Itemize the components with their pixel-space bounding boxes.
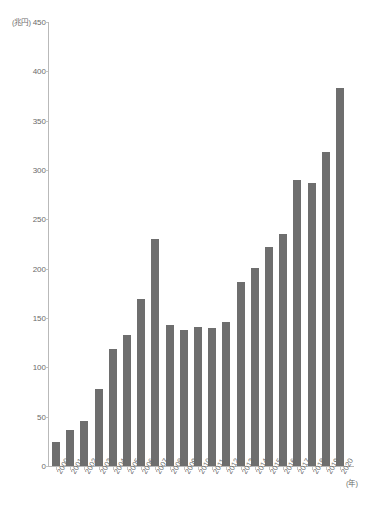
bar: [237, 282, 245, 466]
bar: [194, 327, 202, 466]
y-tick-label: 250: [6, 215, 46, 224]
y-tick-label: 100: [6, 363, 46, 372]
bar: [265, 247, 273, 466]
y-tick-label: 0: [6, 462, 46, 471]
bar: [336, 88, 344, 466]
bar: [166, 325, 174, 466]
bar: [109, 349, 117, 466]
bar: [279, 234, 287, 466]
bar: [151, 239, 159, 466]
y-tick-label: 350: [6, 116, 46, 125]
y-tick-label: 150: [6, 314, 46, 323]
bar: [251, 268, 259, 466]
y-tick-label: 400: [6, 67, 46, 76]
bar: [95, 389, 103, 466]
bar: [123, 335, 131, 466]
bar: [308, 183, 316, 466]
x-axis-tick-labels: 2000200120022003200420052006200720082009…: [48, 467, 354, 506]
bar: [180, 330, 188, 466]
x-axis-unit-label: (年): [346, 477, 358, 488]
bar: [222, 322, 230, 466]
y-tick-label: 200: [6, 264, 46, 273]
bar: [293, 180, 301, 466]
y-tick-label: 50: [6, 412, 46, 421]
bar: [208, 328, 216, 466]
y-axis-tick-labels: 050100150200250300350400450: [0, 0, 46, 506]
y-tick-label: 300: [6, 166, 46, 175]
bar: [137, 299, 145, 466]
bar: [322, 152, 330, 466]
bar-series: [48, 22, 354, 466]
y-tick-label: 450: [6, 18, 46, 27]
bar-chart-figure: (兆円) 050100150200250300350400450 2000200…: [0, 0, 369, 506]
